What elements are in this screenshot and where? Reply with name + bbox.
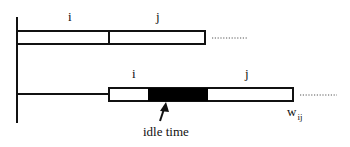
top-label-i: i (68, 9, 72, 24)
idle-time-label: idle time (143, 124, 189, 139)
top-label-j: j (155, 9, 160, 24)
bottom-label-i: i (132, 66, 136, 81)
weight-label-base: w (287, 104, 297, 119)
weight-label-subscript: ij (297, 112, 302, 122)
idle-time-block (148, 88, 208, 101)
top-bar (17, 31, 205, 44)
bottom-label-j: j (244, 66, 249, 81)
schedule-diagram: i j i j idle time wij (0, 0, 350, 147)
weight-label: wij (287, 104, 302, 122)
arrow-up-icon (160, 102, 169, 121)
